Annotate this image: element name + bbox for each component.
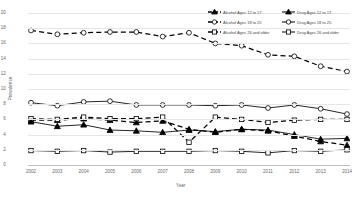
data-point-triangle xyxy=(344,142,350,147)
data-point-circle xyxy=(187,30,192,35)
y-tick-label: 10 xyxy=(0,86,6,91)
chart-legend: Alcohol Ages 12 to 17 Drug Ages 12 to 17… xyxy=(208,7,358,37)
x-tick-label: 2014 xyxy=(332,169,361,174)
x-axis-title: Year xyxy=(0,183,361,188)
legend-item-alcohol-26-older[interactable]: Alcohol Ages 26 and older xyxy=(208,28,282,36)
legend-item-alcohol-12-17[interactable]: Alcohol Ages 12 to 17 xyxy=(208,8,282,16)
gridline xyxy=(28,119,350,120)
gridline xyxy=(28,150,350,151)
data-point-circle xyxy=(81,30,86,35)
data-point-circle xyxy=(318,106,323,111)
gridline xyxy=(28,165,350,166)
legend-marker-circle-dashed-icon xyxy=(208,18,221,26)
gridline xyxy=(28,135,350,136)
data-point-circle xyxy=(108,30,113,35)
legend-label: Drug Ages 26 and older xyxy=(297,30,339,35)
y-tick-label: 16 xyxy=(0,40,6,45)
legend-label: Drug Ages 18 to 25 xyxy=(297,20,331,25)
legend-marker-triangle-solid-icon xyxy=(282,8,295,16)
legend-item-drug-18-25[interactable]: Drug Ages 18 to 25 xyxy=(282,18,358,26)
legend-item-alcohol-18-25[interactable]: Alcohol Ages 18 to 25 xyxy=(208,18,282,26)
gridline xyxy=(28,59,350,60)
legend-label: Drug Ages 12 to 17 xyxy=(297,10,331,15)
y-axis-title: Prevalence xyxy=(8,54,13,124)
data-point-circle xyxy=(345,112,350,117)
data-point-circle xyxy=(134,30,139,35)
data-point-square xyxy=(266,120,270,124)
y-tick-label: 20 xyxy=(0,10,6,15)
data-point-circle xyxy=(318,64,323,69)
legend-item-drug-12-17[interactable]: Drug Ages 12 to 17 xyxy=(282,8,358,16)
data-point-square xyxy=(187,140,191,144)
legend-marker-square-dashed-icon xyxy=(208,28,221,36)
series-drug-ages-18-to-25 xyxy=(29,99,350,117)
y-tick-label: 12 xyxy=(0,71,6,76)
legend-marker-triangle-dashed-icon xyxy=(208,8,221,16)
y-tick-label: 14 xyxy=(0,56,6,61)
series-drug-ages-26-and-older xyxy=(29,148,349,155)
data-point-circle xyxy=(55,32,60,37)
gridline xyxy=(28,74,350,75)
y-tick-label: 6 xyxy=(0,116,6,121)
y-tick-label: 2 xyxy=(0,147,6,152)
legend-marker-square-solid-icon xyxy=(282,28,295,36)
y-tick-label: 4 xyxy=(0,132,6,137)
legend-marker-circle-solid-icon xyxy=(282,18,295,26)
line-chart: Prevalence 02468101214161820 20022003200… xyxy=(0,0,361,198)
legend-label: Alcohol Ages 18 to 25 xyxy=(223,20,262,25)
y-tick-label: 18 xyxy=(0,25,6,30)
gridline xyxy=(28,89,350,90)
data-point-circle xyxy=(266,106,271,111)
data-point-square xyxy=(266,151,270,155)
gridline xyxy=(28,104,350,105)
legend-label: Alcohol Ages 12 to 17 xyxy=(223,10,262,15)
y-tick-label: 0 xyxy=(0,162,6,167)
data-point-circle xyxy=(160,34,165,39)
gridline xyxy=(28,43,350,44)
legend-label: Alcohol Ages 26 and older xyxy=(223,30,269,35)
legend-item-drug-26-older[interactable]: Drug Ages 26 and older xyxy=(282,28,358,36)
y-tick-label: 8 xyxy=(0,101,6,106)
data-point-circle xyxy=(108,99,113,104)
data-point-circle xyxy=(266,52,271,57)
